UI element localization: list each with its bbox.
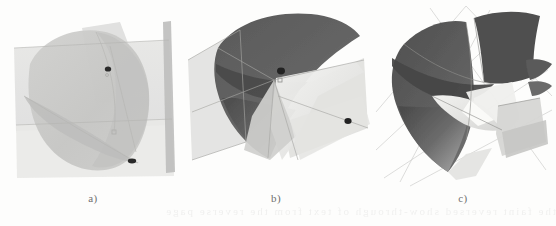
panel-c-fin-right [526, 59, 552, 80]
panel-c-label: c) [370, 192, 556, 204]
intersection-point-upper-marker [105, 66, 111, 71]
intersection-point-upper-marker [277, 68, 285, 75]
figure-panel-a: a) [0, 0, 186, 226]
panel-a-label: a) [0, 192, 186, 204]
figure-root: a) [0, 0, 556, 226]
panel-b-label: b) [178, 192, 374, 204]
intersection-point-lower-marker [128, 159, 136, 164]
figure-panel-b: b) [178, 0, 374, 226]
panel-c-fin-right-lower [528, 81, 552, 96]
intersection-point-right-marker [344, 118, 351, 124]
panel-c-render [370, 0, 556, 190]
panel-b-render [178, 0, 374, 190]
figure-panel-c: c) [370, 0, 556, 226]
panel-a-render [0, 0, 186, 190]
